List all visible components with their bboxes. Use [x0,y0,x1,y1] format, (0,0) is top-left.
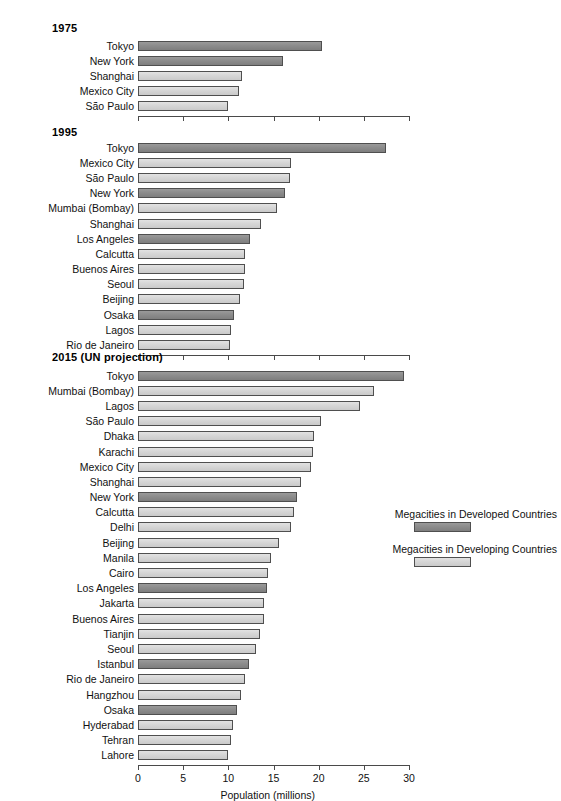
bar [138,690,241,700]
bar [138,203,277,213]
bar [138,629,260,639]
category-label: Lahore [101,750,134,761]
category-label: New York [90,55,134,66]
bar [138,568,268,578]
legend-entry: Megacities in Developing Countries [388,543,561,567]
category-label: Beijing [102,537,134,548]
panel-title: 1975 [52,22,77,34]
bar [138,234,250,244]
x-axis-tick [364,116,365,121]
bar [138,522,291,532]
bar [138,583,267,593]
category-label: Mexico City [80,86,134,97]
category-label: Seoul [107,643,134,654]
bar [138,401,360,411]
x-axis-tick [409,765,410,770]
bar [138,644,256,654]
x-axis-tick [228,355,229,360]
category-label: Lagos [105,400,134,411]
x-axis-tick [228,765,229,770]
category-label: Hyderabad [83,719,134,730]
bar [138,750,228,760]
category-label: Calcutta [95,507,134,518]
legend-label: Megacities in Developing Countries [388,543,561,555]
x-axis-tick [183,355,184,360]
x-axis-tick [409,116,410,121]
x-axis-tick-label: 10 [222,772,234,784]
x-axis-tick [228,116,229,121]
bar [138,158,291,168]
category-label: Mumbai (Bombay) [48,203,134,214]
category-label: Osaka [104,309,134,320]
category-label: Shanghai [90,476,134,487]
category-label: São Paulo [86,416,134,427]
panel-title: 2015 (UN projection) [52,351,163,363]
category-label: Mumbai (Bombay) [48,385,134,396]
bar [138,325,231,335]
category-label: Los Angeles [77,583,134,594]
category-label: Dhaka [104,431,134,442]
panel-title: 1995 [52,126,77,138]
bar [138,492,297,502]
category-label: New York [90,188,134,199]
bar [138,507,294,517]
category-label: Buenos Aires [72,264,134,275]
category-label: Los Angeles [77,233,134,244]
x-axis-tick [319,765,320,770]
bar [138,86,239,96]
category-label: Rio de Janeiro [66,340,134,351]
category-label: Mexico City [80,461,134,472]
bar [138,659,249,669]
bar [138,143,386,153]
x-axis-tick [183,765,184,770]
bar [138,386,374,396]
category-label: Osaka [104,704,134,715]
legend: Megacities in Developed CountriesMegacit… [388,508,561,578]
x-axis-tick-label: 20 [313,772,325,784]
category-label: Tokyo [107,142,134,153]
category-label: Tokyo [107,40,134,51]
category-label: Buenos Aires [72,613,134,624]
bar [138,477,301,487]
bar [138,41,322,51]
bar [138,188,285,198]
x-axis-tick [138,116,139,121]
category-label: Shanghai [90,70,134,81]
bar [138,614,264,624]
bar [138,416,321,426]
legend-swatch-developed [414,522,471,532]
category-label: Manila [103,552,134,563]
bar [138,264,245,274]
bar [138,598,264,608]
bar [138,705,237,715]
category-label: Mexico City [80,157,134,168]
x-axis-tick [409,355,410,360]
category-label: New York [90,492,134,503]
category-label: Shanghai [90,218,134,229]
bar [138,294,240,304]
category-label: Lagos [105,324,134,335]
x-axis-title: Population (millions) [221,789,316,801]
bar [138,447,313,457]
bar [138,71,242,81]
category-label: Beijing [102,294,134,305]
bar [138,56,283,66]
category-label: Hangzhou [86,689,134,700]
bar [138,553,271,563]
x-axis-tick [319,116,320,121]
megacities-chart: 1975TokyoNew YorkShanghaiMexico CitySão … [0,0,561,801]
x-axis-tick-label: 5 [180,772,186,784]
bar [138,173,290,183]
legend-entry: Megacities in Developed Countries [388,508,561,532]
category-label: Tokyo [107,370,134,381]
category-label: São Paulo [86,172,134,183]
legend-swatch-developing [414,557,471,567]
bar [138,720,233,730]
bar [138,219,261,229]
category-label: Istanbul [97,659,134,670]
x-axis-tick-label: 25 [358,772,370,784]
bar [138,462,311,472]
x-axis-tick [364,355,365,360]
bar [138,538,279,548]
x-axis-tick [138,765,139,770]
